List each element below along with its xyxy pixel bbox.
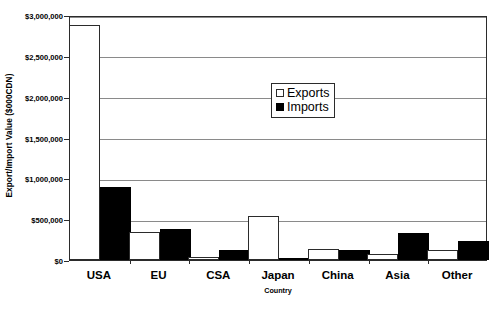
y-tick-label: $3,000,000 — [1, 12, 63, 21]
x-tick-label-csa: CSA — [206, 269, 230, 281]
x-axis-title: Country — [264, 286, 292, 295]
y-tick-mark — [64, 261, 69, 262]
category-separator-tick — [249, 260, 250, 264]
bar-group — [189, 17, 249, 260]
bar-eu-exports — [129, 232, 160, 260]
bar-other-exports — [427, 250, 458, 260]
x-tick-label-usa: USA — [87, 269, 111, 281]
bar-japan-exports — [248, 216, 279, 260]
bar-eu-imports — [160, 229, 191, 260]
bar-usa-exports — [69, 25, 100, 260]
x-tick-label-asia: Asia — [385, 269, 409, 281]
y-tick-label: $500,000 — [1, 216, 63, 225]
x-tick-label-eu: EU — [151, 269, 167, 281]
category-separator-tick — [309, 260, 310, 264]
y-tick-label: $1,500,000 — [1, 134, 63, 143]
y-tick-label: $2,500,000 — [1, 52, 63, 61]
plot-area — [69, 16, 487, 261]
category-separator-tick — [369, 260, 370, 264]
category-separator-tick — [130, 260, 131, 264]
bar-china-imports — [339, 250, 370, 260]
bar-csa-exports — [188, 257, 219, 260]
legend-item-exports: Exports — [276, 86, 329, 100]
bar-group — [130, 17, 190, 260]
legend-swatch-imports-icon — [276, 103, 284, 111]
legend-label-imports: Imports — [287, 101, 329, 114]
bars-layer — [70, 17, 486, 260]
legend-item-imports: Imports — [276, 100, 329, 114]
y-tick-label: $0 — [1, 257, 63, 266]
bar-group — [369, 17, 429, 260]
legend-swatch-exports-icon — [276, 89, 284, 97]
category-separator-tick — [189, 260, 190, 264]
x-tick-label-other: Other — [442, 269, 473, 281]
bar-chart: Export/Import Value ($000CDN) $0$500,000… — [0, 0, 495, 313]
bar-asia-imports — [398, 233, 429, 260]
bar-japan-imports — [279, 258, 310, 260]
category-separator-tick — [428, 260, 429, 264]
y-tick-label: $2,000,000 — [1, 93, 63, 102]
bar-china-exports — [308, 249, 339, 260]
bar-asia-exports — [367, 254, 398, 260]
chart-legend: Exports Imports — [271, 83, 335, 118]
bar-group — [309, 17, 369, 260]
bar-group — [428, 17, 488, 260]
x-tick-label-japan: Japan — [261, 269, 294, 281]
y-tick-label: $1,000,000 — [1, 175, 63, 184]
bar-usa-imports — [100, 187, 131, 260]
bar-csa-imports — [219, 250, 250, 260]
bar-group — [70, 17, 130, 260]
bar-group — [249, 17, 309, 260]
x-tick-label-china: China — [322, 269, 354, 281]
legend-label-exports: Exports — [287, 87, 329, 100]
bar-other-imports — [458, 241, 489, 260]
